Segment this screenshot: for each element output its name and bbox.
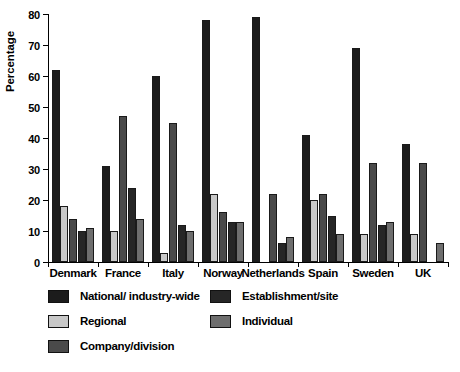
bar [378, 225, 386, 262]
y-axis-tick-label: 20 [28, 195, 40, 206]
bar [419, 163, 427, 262]
legend-item: Regional [48, 314, 126, 329]
bar [402, 144, 410, 262]
legend-swatch [210, 315, 231, 328]
bar [278, 243, 286, 262]
bar [169, 123, 177, 263]
y-axis-tick-label: 0 [34, 257, 40, 268]
bar [202, 20, 210, 262]
legend-swatch [48, 290, 69, 303]
bar-group [198, 14, 248, 262]
bar [336, 234, 344, 262]
bar [286, 237, 294, 262]
bar [236, 222, 244, 262]
bar [110, 231, 118, 262]
bar [328, 216, 336, 263]
x-axis-tick [98, 262, 99, 267]
x-axis-label: UK [388, 268, 458, 280]
bar [119, 116, 127, 262]
y-axis-title: Percentage [4, 31, 16, 92]
y-axis-tick-label: 50 [28, 102, 40, 113]
x-axis-tick [348, 262, 349, 267]
legend-label: Regional [80, 316, 126, 328]
legend-label: National/ industry-wide [80, 291, 200, 303]
legend-swatch [48, 315, 69, 328]
legend-item: Individual [210, 314, 293, 329]
chart-legend: National/ industry-wideRegionalCompany/d… [48, 289, 448, 365]
bar-group [398, 14, 448, 262]
bar [69, 219, 77, 262]
bar [186, 231, 194, 262]
bar [310, 200, 318, 262]
y-axis-tick-label: 30 [28, 164, 40, 175]
bar [302, 135, 310, 262]
bar-group [298, 14, 348, 262]
bar [360, 234, 368, 262]
y-axis-tick-label: 70 [28, 40, 40, 51]
bar [102, 166, 110, 262]
bar [136, 219, 144, 262]
bar [352, 48, 360, 262]
bar [436, 243, 444, 262]
x-axis-tick [398, 262, 399, 267]
bar [52, 70, 60, 262]
bar-group [148, 14, 198, 262]
bar-group [98, 14, 148, 262]
bar [86, 228, 94, 262]
bar [386, 222, 394, 262]
bar [219, 212, 227, 262]
bar [410, 234, 418, 262]
plot-area: 01020304050607080 DenmarkFranceItalyNorw… [48, 14, 448, 262]
legend-label: Establishment/site [242, 291, 338, 303]
bar-group [248, 14, 298, 262]
bar [60, 206, 68, 262]
bar [269, 194, 277, 262]
bar [160, 253, 168, 262]
bar [128, 188, 136, 262]
legend-swatch [48, 340, 69, 353]
x-axis-tick [448, 262, 449, 267]
legend-item: Company/division [48, 339, 174, 354]
legend-swatch [210, 290, 231, 303]
bar-group [348, 14, 398, 262]
x-axis-tick [198, 262, 199, 267]
legend-item: Establishment/site [210, 289, 338, 304]
bar [319, 194, 327, 262]
legend-label: Individual [242, 316, 293, 328]
bar [152, 76, 160, 262]
y-axis-tick-label: 80 [28, 9, 40, 20]
bar-chart: 01020304050607080 DenmarkFranceItalyNorw… [0, 0, 460, 372]
bar [178, 225, 186, 262]
bar [252, 17, 260, 262]
y-axis-tick-label: 10 [28, 226, 40, 237]
bar [369, 163, 377, 262]
legend-label: Company/division [80, 341, 174, 353]
y-axis-tick-label: 60 [28, 71, 40, 82]
bar [228, 222, 236, 262]
y-axis-tick-label: 40 [28, 133, 40, 144]
bar [78, 231, 86, 262]
x-axis-tick [148, 262, 149, 267]
bar-group [48, 14, 98, 262]
legend-item: National/ industry-wide [48, 289, 200, 304]
bar [210, 194, 218, 262]
